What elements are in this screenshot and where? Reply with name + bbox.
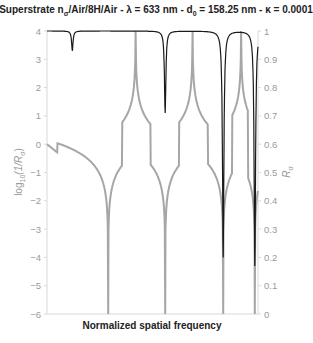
chart: Superstrate nσ/Air/8H/Air - λ = 633 nm -… xyxy=(0,0,313,343)
left-tick-label: 1 xyxy=(36,110,41,121)
x-axis-label: Normalized spatial frequency xyxy=(83,320,222,331)
right-tick-label: 0.2 xyxy=(264,252,277,263)
right-tick-label: 0 xyxy=(264,309,269,320)
right-tick-label: 0.6 xyxy=(264,139,277,150)
left-tick-label: 2 xyxy=(36,82,41,93)
left-tick-label: −6 xyxy=(30,309,41,320)
right-tick-label: 0.3 xyxy=(264,224,277,235)
right-tick-labels: 10.90.80.70.60.50.40.30.20.10 xyxy=(258,26,277,320)
right-tick-label: 0.9 xyxy=(264,54,277,65)
left-tick-label: −2 xyxy=(30,195,41,206)
right-tick-label: 1 xyxy=(264,26,269,37)
left-tick-label: −4 xyxy=(30,252,41,263)
left-tick-label: −5 xyxy=(30,280,41,291)
reflectance-curve xyxy=(47,31,258,266)
left-tick-label: 0 xyxy=(36,139,41,150)
right-tick-label: 0.4 xyxy=(264,195,277,206)
left-tick-label: 3 xyxy=(36,54,41,65)
chart-title: Superstrate nσ/Air/8H/Air - λ = 633 nm -… xyxy=(0,4,313,17)
y-axis-left-label: log10(1/Rσ) xyxy=(13,148,26,196)
log-reflectance-curve xyxy=(47,31,258,314)
plot-area xyxy=(47,31,258,314)
left-tick-labels: 43210−1−2−3−4−5−6 xyxy=(30,26,47,320)
right-tick-label: 0.1 xyxy=(264,280,277,291)
right-tick-label: 0.7 xyxy=(264,110,277,121)
left-tick-label: −1 xyxy=(30,167,41,178)
y-axis-right-label: Rσ xyxy=(281,166,294,178)
left-tick-label: 4 xyxy=(36,26,41,37)
left-tick-label: −3 xyxy=(30,224,41,235)
right-tick-label: 0.5 xyxy=(264,167,277,178)
right-tick-label: 0.8 xyxy=(264,82,277,93)
